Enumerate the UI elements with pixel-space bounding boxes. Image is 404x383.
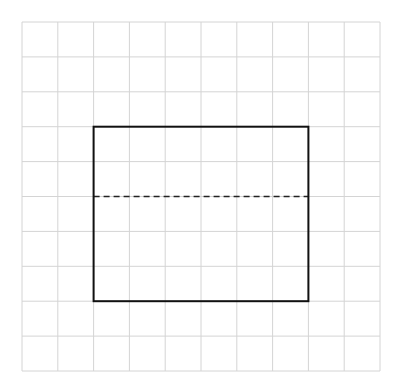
grid-lines: [22, 22, 380, 371]
grid-diagram: [0, 0, 404, 383]
